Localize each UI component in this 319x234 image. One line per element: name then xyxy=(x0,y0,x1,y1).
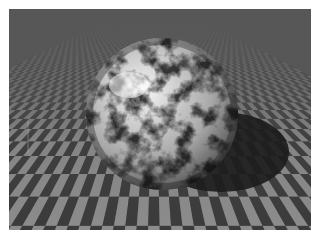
render-viewport xyxy=(9,9,311,230)
checkerboard-floor xyxy=(9,9,311,230)
marble-sphere xyxy=(86,38,238,190)
